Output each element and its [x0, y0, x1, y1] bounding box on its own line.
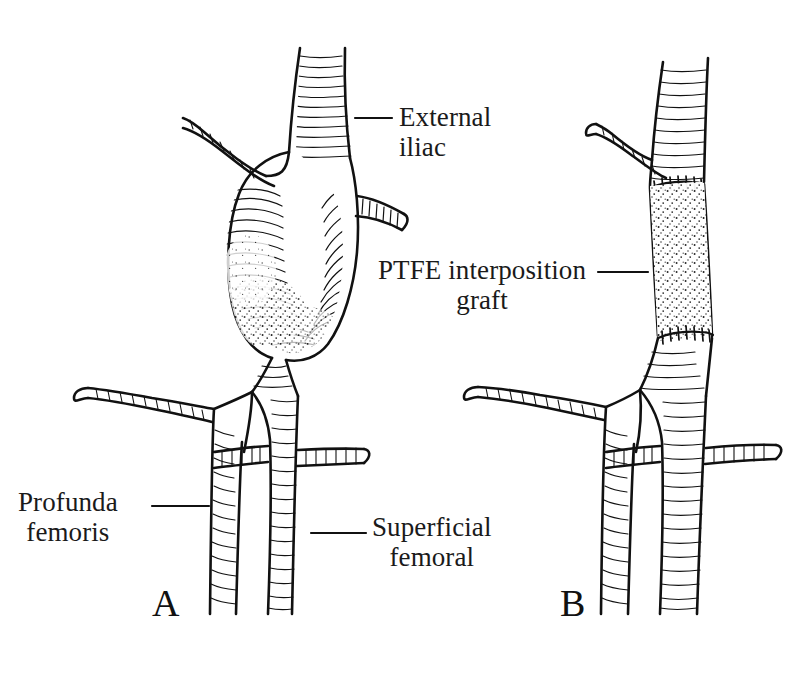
panel-b-illustration: [464, 58, 781, 614]
superficial-femoral-a: [252, 392, 298, 614]
superficial-femoral-b: [640, 390, 706, 614]
lateral-branch-a: [297, 449, 369, 466]
label-external-iliac: External iliac: [399, 102, 491, 162]
common-femoral-distal-b: [640, 338, 712, 396]
label-superficial-femoral: Superficial femoral: [372, 512, 492, 572]
bifurcation-shading-a: [254, 366, 292, 388]
iliac-side-branch-a: [183, 118, 274, 186]
medical-illustration-figure: External iliac PTFE interposition graft …: [0, 0, 806, 676]
inguinal-side-branch-a: [356, 196, 408, 230]
profunda-femoris-b: [464, 387, 641, 614]
lateral-branch-b: [705, 445, 781, 464]
panel-a-illustration: [74, 48, 408, 614]
panel-label-b: B: [560, 581, 586, 625]
label-ptfe-graft: PTFE interposition graft: [378, 255, 586, 315]
label-profunda-femoris: Profunda femoris: [18, 487, 118, 547]
aneurysm-stipple-a: [218, 234, 340, 354]
panel-label-a: A: [152, 581, 180, 625]
